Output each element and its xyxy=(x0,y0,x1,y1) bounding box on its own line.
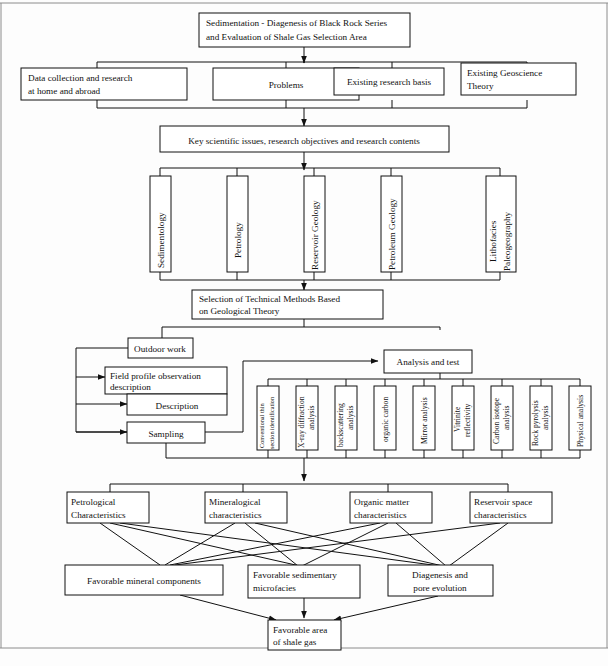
petrological-line-1: Petrological xyxy=(71,497,116,507)
data-collection-line-1: Data collection and research xyxy=(28,73,133,83)
carbon-isotope-line-1: Carbon isotope xyxy=(492,397,501,444)
reservoir-space-line-2: characteristics xyxy=(474,510,527,520)
node-existing-research-basis: Existing research basis xyxy=(334,68,444,95)
analysis-and-test-label: Analysis and test xyxy=(397,357,460,367)
node-favorable-mineral-components: Favorable mineral components xyxy=(65,565,223,595)
node-existing-geoscience-theory: Existing Geoscience Theory xyxy=(461,63,576,95)
favorable-sedimentary-line-1: Favorable sedimentary xyxy=(253,570,337,580)
diagenesis-line-2: pore evolution xyxy=(413,583,467,593)
node-organic-carbon: organic carbon xyxy=(374,386,396,450)
node-xray-diffraction: X-ray diffraction analysis xyxy=(296,386,318,450)
node-organic-matter-characteristics: Organic matter characteristics xyxy=(350,492,432,523)
node-rock-pyrolysis: Rock pyrolysis analysis xyxy=(530,386,552,450)
mesh-petro-mineral xyxy=(100,523,160,565)
physical-analysis-label: Physical analysis xyxy=(576,395,585,447)
mesh-res-diag xyxy=(449,523,508,566)
mineralogical-line-2: characteristics xyxy=(209,510,262,520)
xray-diffraction-line-2: analysis xyxy=(307,405,316,430)
rock-pyrolysis-line-1: Rock pyrolysis xyxy=(531,400,540,446)
reservoir-space-line-1: Reservoir space xyxy=(474,497,532,507)
outdoor-work-label: Outdoor work xyxy=(134,344,186,354)
reservoir-geology-label: Reservoir Geology xyxy=(310,200,320,270)
node-title-box: Sedimentation - Diagenesis of Black Rock… xyxy=(199,13,410,47)
node-petrological-characteristics: Petrological Characteristics xyxy=(67,492,149,523)
mesh-org-sed xyxy=(302,523,388,566)
petrology-label: Petrology xyxy=(233,222,243,258)
title-line-2: and Evaluation of Shale Gas Selection Ar… xyxy=(206,32,367,42)
node-conventional-thin-section: Conventional thin section identification xyxy=(257,386,279,450)
technical-methods-line-1: Selection of Technical Methods Based xyxy=(199,294,340,304)
key-issues-label: Key scientific issues, research objectiv… xyxy=(188,136,420,146)
node-carbon-isotope: Carbon isotope analysis xyxy=(491,386,513,450)
node-sedimentology: Sedimentology xyxy=(150,176,171,272)
backscattering-line-2: analysis xyxy=(346,405,355,430)
link-diag-to-result xyxy=(334,596,438,620)
mesh-org-diag xyxy=(396,523,446,566)
result-line-1: Favorable area xyxy=(273,625,327,635)
node-field-profile-observation: Field profile observation description xyxy=(105,367,227,394)
organic-matter-line-2: characteristics xyxy=(354,510,407,520)
node-petroleum-geology: Petroleum Geology xyxy=(381,176,402,272)
title-line-1: Sedimentation - Diagenesis of Black Rock… xyxy=(206,18,388,28)
mirror-analysis-label: Mirror analysis xyxy=(420,397,429,444)
node-mirror-analysis: Mirror analysis xyxy=(413,386,435,450)
node-reservoir-space-characteristics: Reservoir space characteristics xyxy=(470,492,552,523)
node-backscattering: backscattering analysis xyxy=(335,386,357,450)
conventional-thin-line-2: section identification xyxy=(268,397,275,449)
node-sampling: Sampling xyxy=(127,422,205,443)
flowchart-diagram: Sedimentation - Diagenesis of Black Rock… xyxy=(0,0,608,666)
result-line-2: of shale gas xyxy=(273,637,317,647)
problems-label: Problems xyxy=(269,80,304,90)
organic-carbon-label: organic carbon xyxy=(381,397,390,442)
backscattering-line-1: backscattering xyxy=(336,403,345,447)
lithofacies-line-1: Lithofacies xyxy=(488,220,498,262)
petroleum-geology-label: Petroleum Geology xyxy=(387,198,397,270)
description-label: Description xyxy=(156,401,199,411)
sampling-label: Sampling xyxy=(148,429,184,439)
carbon-isotope-line-2: analysis xyxy=(502,405,511,430)
petrological-line-2: Characteristics xyxy=(71,510,126,520)
mineralogical-line-1: Mineralogical xyxy=(209,497,261,507)
vitrinite-line-2: reflectivity xyxy=(463,403,472,437)
diagenesis-line-1: Diagenesis and xyxy=(412,570,468,580)
technical-methods-line-2: on Geological Theory xyxy=(199,306,280,316)
field-profile-line-2: description xyxy=(110,382,151,392)
node-data-collection: Data collection and research at home and… xyxy=(21,68,187,100)
xray-diffraction-line-1: X-ray diffraction xyxy=(297,396,306,448)
link-mineral-to-result xyxy=(180,595,276,620)
existing-geoscience-line-2: Theory xyxy=(467,81,494,91)
node-result-favorable-area: Favorable area of shale gas xyxy=(268,620,341,650)
node-lithofacies-paleogeography: Lithofacies Paleogeography xyxy=(486,176,516,272)
node-key-issues: Key scientific issues, research objectiv… xyxy=(160,126,449,152)
node-reservoir-geology: Reservoir Geology xyxy=(304,176,325,272)
favorable-sedimentary-line-2: microfacies xyxy=(253,583,296,593)
node-outdoor-work: Outdoor work xyxy=(128,338,193,358)
node-favorable-sedimentary-microfacies: Favorable sedimentary microfacies xyxy=(248,565,360,598)
node-vitrinite-reflectivity: Vitrinite reflectivity xyxy=(452,386,474,450)
node-physical-analysis: Physical analysis xyxy=(569,386,591,450)
mesh-petro-diag xyxy=(120,523,440,566)
node-mineralogical-characteristics: Mineralogical characteristics xyxy=(205,492,287,523)
vitrinite-line-1: Vitrinite xyxy=(453,406,462,432)
conventional-thin-line-1: Conventional thin xyxy=(258,403,265,448)
bus-disciplines-bottom xyxy=(160,272,500,280)
node-technical-methods: Selection of Technical Methods Based on … xyxy=(192,290,383,319)
data-collection-line-2: at home and abroad xyxy=(28,86,101,96)
existing-geoscience-line-1: Existing Geoscience xyxy=(467,68,542,78)
existing-research-basis-label: Existing research basis xyxy=(347,77,432,87)
lithofacies-line-2: Paleogeography xyxy=(502,211,512,271)
sedimentology-label: Sedimentology xyxy=(156,212,166,268)
rock-pyrolysis-line-2: analysis xyxy=(541,405,550,430)
favorable-mineral-label: Favorable mineral components xyxy=(87,576,201,586)
organic-matter-line-1: Organic matter xyxy=(354,497,409,507)
node-analysis-and-test: Analysis and test xyxy=(384,350,472,373)
node-diagenesis-pore-evolution: Diagenesis and pore evolution xyxy=(388,565,493,596)
node-description: Description xyxy=(127,394,227,415)
bus-background-bottom xyxy=(97,100,527,108)
node-petrology: Petrology xyxy=(227,176,248,272)
field-profile-line-1: Field profile observation xyxy=(110,371,201,381)
